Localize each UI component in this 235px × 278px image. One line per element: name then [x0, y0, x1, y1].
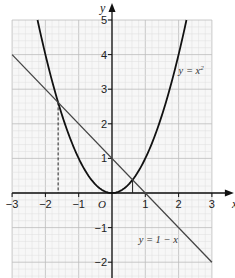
- x-tick-label: −2: [39, 198, 52, 210]
- y-tick-label: 1: [101, 152, 107, 164]
- series-label-superscript: 2: [200, 64, 204, 72]
- x-tick-label: −3: [6, 198, 19, 210]
- y-tick-label: −1: [94, 222, 107, 234]
- x-axis-label: x: [231, 197, 235, 211]
- series-label-text: y = x: [178, 65, 201, 76]
- x-tick-label: 3: [209, 198, 215, 210]
- x-tick-label: 1: [142, 198, 148, 210]
- x-axis-arrow: [225, 190, 234, 197]
- y-tick-label: 4: [101, 49, 107, 61]
- origin-label: O: [98, 198, 106, 210]
- y-tick-label: −2: [94, 256, 107, 268]
- y-tick-label: 3: [101, 83, 107, 95]
- x-tick-label: 2: [176, 198, 182, 210]
- series-label: y = 1 − x: [138, 234, 179, 245]
- y-axis-label: y: [99, 1, 106, 15]
- y-tick-label: 2: [101, 118, 107, 130]
- y-axis-arrow: [109, 3, 116, 12]
- y-tick-label: 5: [101, 14, 107, 26]
- x-tick-label: −1: [72, 198, 85, 210]
- series-label: y = x2: [178, 64, 205, 76]
- chart: −3−2−112354321−1−2Oxyy = x2y = 1 − x: [0, 0, 235, 278]
- series-label-text: y = 1 − x: [138, 234, 179, 245]
